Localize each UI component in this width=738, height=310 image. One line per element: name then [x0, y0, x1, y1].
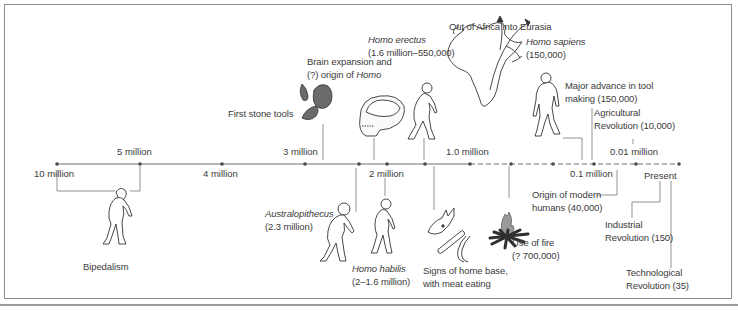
- label-technological-revolution: Technological Revolution (35): [626, 266, 689, 292]
- label-major-tool-advance: Major advance in tool making (150,000): [565, 79, 653, 105]
- label-australopithecus: Australopithecus (2.3 million): [265, 207, 334, 233]
- homo-habilis-name: Homo habilis: [352, 263, 406, 274]
- tick-label-present: Present: [644, 170, 677, 182]
- label-home-base: Signs of home base, with meat eating: [423, 264, 508, 290]
- tick-label-1-million: 1.0 million: [446, 146, 489, 158]
- label-homo-habilis: Homo habilis (2–1.6 million): [352, 262, 410, 288]
- label-first-stone-tools: First stone tools: [228, 107, 293, 120]
- walking-ape-icon: [103, 188, 132, 244]
- label-industrial-revolution: Industrial Revolution (150): [605, 218, 673, 244]
- tick-label-2-million: 2 million: [369, 168, 404, 180]
- label-out-of-africa: Out of Africa into Eurasia: [449, 20, 551, 33]
- tick-label-10-million: 10 million: [34, 168, 74, 180]
- homo-sapiens-name: Homo sapiens: [526, 36, 586, 47]
- tick-label-4-million: 4 million: [203, 168, 238, 180]
- homo-erectus-name: Homo erectus: [368, 34, 426, 45]
- homo-sapiens-figure-icon: [533, 73, 560, 136]
- homo-erectus-figure-icon: [408, 83, 437, 139]
- homo-habilis-figure-icon: [371, 199, 395, 253]
- label-homo-sapiens: Homo sapiens (150,000): [526, 35, 586, 61]
- australopithecus-name: Australopithecus: [265, 208, 334, 219]
- homo-erectus-dates: (1.6 million–550,000): [368, 46, 455, 59]
- stone-tools-icon: [300, 84, 332, 120]
- tick-label-5-million: 5 million: [117, 146, 152, 158]
- tick-label-3-million: 3 million: [283, 146, 318, 158]
- label-homo-erectus: Homo erectus (1.6 million–550,000): [368, 33, 455, 59]
- australopithecus-dates: (2.3 million): [265, 220, 334, 233]
- label-use-of-fire: Use of fire (? 700,000): [512, 236, 560, 262]
- homo-habilis-dates: (2–1.6 million): [352, 275, 410, 288]
- label-bipedalism: Bipedalism: [83, 260, 128, 273]
- label-origin-modern-humans: Origin of modern humans (40,000): [532, 188, 602, 214]
- homo-sapiens-dates: (150,000): [526, 48, 586, 61]
- brain-expansion-line2: (?) origin of Homo: [307, 68, 392, 81]
- label-agricultural-revolution: Agricultural Revolution (10,000): [594, 106, 675, 132]
- tick-label-0-01-million: 0.01 million: [610, 146, 658, 158]
- animal-skull-bones-icon: [428, 208, 470, 262]
- skull-icon: [360, 96, 405, 136]
- tick-label-0-1-million: 0.1 million: [570, 168, 613, 180]
